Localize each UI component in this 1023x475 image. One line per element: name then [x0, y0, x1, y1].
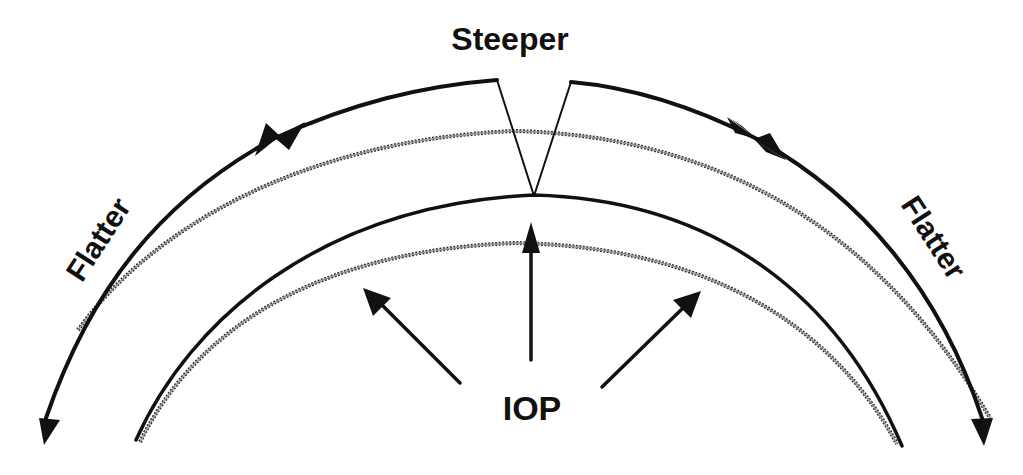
iop-arrow-right	[602, 291, 701, 387]
right-end-arrowhead-icon	[971, 418, 993, 446]
flatter-label-left: Flatter	[59, 192, 137, 287]
right-bowtie-arrowheads-icon	[727, 117, 786, 160]
left-end-arrowhead-icon	[39, 418, 60, 445]
left-bowtie-arrowheads-icon	[255, 122, 305, 156]
iop-label: IOP	[503, 389, 562, 427]
iop-arrow-left	[363, 288, 460, 383]
outer-deformed-curve-right	[571, 82, 982, 418]
steeper-label: Steeper	[451, 21, 568, 57]
apex-pointer-lines	[497, 80, 571, 196]
corneal-deformation-diagram: Steeper Flatter Flatter IOP	[0, 0, 1023, 475]
